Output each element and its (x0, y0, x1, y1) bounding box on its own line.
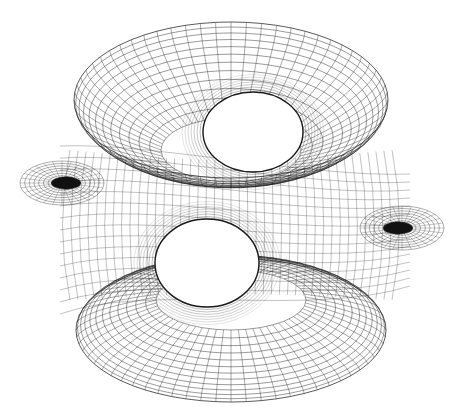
front-hole (134, 202, 280, 325)
left-wing (20, 161, 104, 205)
vortex-core (51, 177, 80, 189)
hole-opening (203, 92, 303, 172)
minimal-surface-figure (0, 0, 462, 415)
right-wing (360, 206, 444, 250)
vortex-core (383, 222, 412, 234)
wireframe-surface (0, 0, 462, 415)
hole-opening (155, 219, 259, 307)
